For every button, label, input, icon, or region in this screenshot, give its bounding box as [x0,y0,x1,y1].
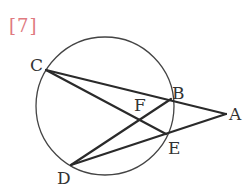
line-segments [46,70,226,165]
segment-ce [46,70,166,134]
point-label-f: F [134,95,146,115]
point-label-d: D [57,168,71,186]
segment-da [71,114,226,165]
point-label-c: C [30,55,43,75]
point-label-a: A [228,104,242,124]
point-label-b: B [172,83,185,103]
geometry-figure: ABCDEF [0,0,246,186]
point-label-e: E [168,138,180,158]
